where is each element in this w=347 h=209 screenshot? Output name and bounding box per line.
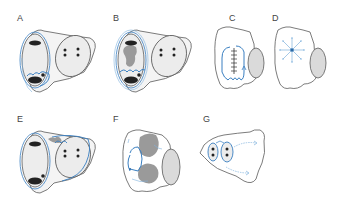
panel-a-diagram: [0, 0, 115, 105]
panel-c: C: [200, 0, 275, 105]
panel-c-diagram: [200, 0, 275, 105]
panel-g-diagram: [180, 105, 290, 209]
panel-d-diagram: [270, 0, 347, 105]
panel-e: E: [0, 105, 115, 209]
panel-a: A: [0, 0, 115, 105]
panel-e-diagram: [0, 105, 115, 209]
panel-g: G: [180, 105, 290, 209]
panel-d: D: [270, 0, 347, 105]
